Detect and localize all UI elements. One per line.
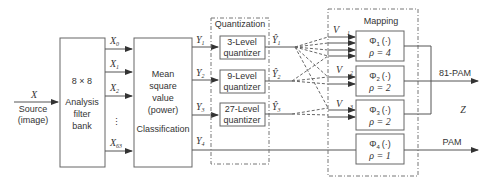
coef-x2: X2: [109, 82, 119, 94]
svg-text:V⃗3: V⃗3: [336, 98, 353, 110]
svg-text:square: square: [149, 81, 177, 91]
svg-text:Mean: Mean: [152, 69, 175, 79]
svg-text:quantizer: quantizer: [223, 115, 260, 125]
svg-text:ρ = 2: ρ = 2: [368, 82, 391, 93]
svg-text:Y3: Y3: [196, 101, 205, 113]
quantization-title: Quantization: [215, 19, 266, 29]
svg-text:Y2: Y2: [196, 67, 205, 79]
coef-x0: X0: [109, 35, 119, 47]
source-input: X Source (image): [14, 89, 58, 125]
output-pam: PAM: [443, 137, 462, 147]
input-symbol: X: [30, 89, 38, 100]
svg-text:Y1: Y1: [196, 34, 205, 46]
mapping-title: Mapping: [364, 16, 399, 26]
svg-text:8 × 8: 8 × 8: [72, 76, 92, 86]
fanout-lines: [292, 37, 328, 115]
mapping-inputs: V⃗1 V⃗2 V⃗3: [328, 24, 355, 117]
svg-text:(power): (power): [148, 105, 179, 115]
svg-text:9-Level: 9-Level: [227, 71, 257, 81]
ellipsis: ⋮: [112, 117, 121, 127]
svg-text:V⃗1: V⃗1: [333, 24, 350, 36]
analysis-filter-bank: 8 × 8 Analysis filter bank: [60, 38, 105, 167]
quantization-group: Quantization 3-Level quantizer 9-Level q…: [211, 18, 295, 164]
output-lines: 81-PAM Z PAM: [404, 46, 478, 150]
source-label: Source: [19, 104, 48, 114]
svg-text:3-Level: 3-Level: [227, 37, 257, 47]
svg-text:Analysis: Analysis: [65, 97, 99, 107]
svg-text:ρ = 2: ρ = 2: [368, 116, 391, 127]
coef-x1: X1: [109, 58, 119, 70]
coefficient-lines: X0 X1 X2 ⋮ X63: [105, 35, 132, 151]
svg-text:ρ = 4: ρ = 4: [368, 47, 391, 58]
svg-text:Ŷ1: Ŷ1: [272, 34, 281, 46]
svg-text:27-Level: 27-Level: [225, 104, 260, 114]
svg-text:value: value: [152, 93, 174, 103]
svg-text:V⃗2: V⃗2: [336, 64, 353, 76]
svg-text:bank: bank: [72, 121, 92, 131]
output-z: Z: [460, 104, 466, 115]
source-sublabel: (image): [18, 115, 49, 125]
svg-text:Classification: Classification: [136, 124, 189, 134]
svg-text:quantizer: quantizer: [223, 48, 260, 58]
coef-x63: X63: [109, 137, 122, 149]
classification-block: Mean square value (power) Classification: [134, 38, 192, 167]
svg-text:Ŷ3: Ŷ3: [272, 101, 281, 113]
svg-text:ρ = 1: ρ = 1: [368, 150, 391, 161]
output-81pam: 81-PAM: [439, 68, 471, 78]
svg-text:Y4: Y4: [196, 135, 205, 147]
svg-text:Ŷ2: Ŷ2: [272, 68, 281, 80]
svg-text:filter: filter: [73, 109, 90, 119]
svg-text:quantizer: quantizer: [223, 82, 260, 92]
block-diagram: X Source (image) 8 × 8 Analysis filter b…: [0, 0, 492, 186]
